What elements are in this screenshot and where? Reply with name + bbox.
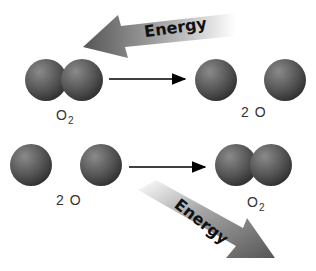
bottom-o2-molecule (215, 144, 292, 186)
top-o-atom-2 (264, 59, 306, 101)
top-o2-label: O2 (56, 107, 74, 126)
top-2o-label: 2 O (241, 104, 267, 120)
top-o-atom-1 (195, 59, 237, 101)
bottom-o-atom-1 (10, 144, 52, 186)
top-o2-molecule (25, 59, 103, 101)
bottom-o-atom-2 (80, 144, 122, 186)
bottom-2o-label: 2 O (56, 192, 82, 208)
diagram-canvas (0, 0, 316, 271)
bottom-o2-label: O2 (247, 194, 265, 213)
